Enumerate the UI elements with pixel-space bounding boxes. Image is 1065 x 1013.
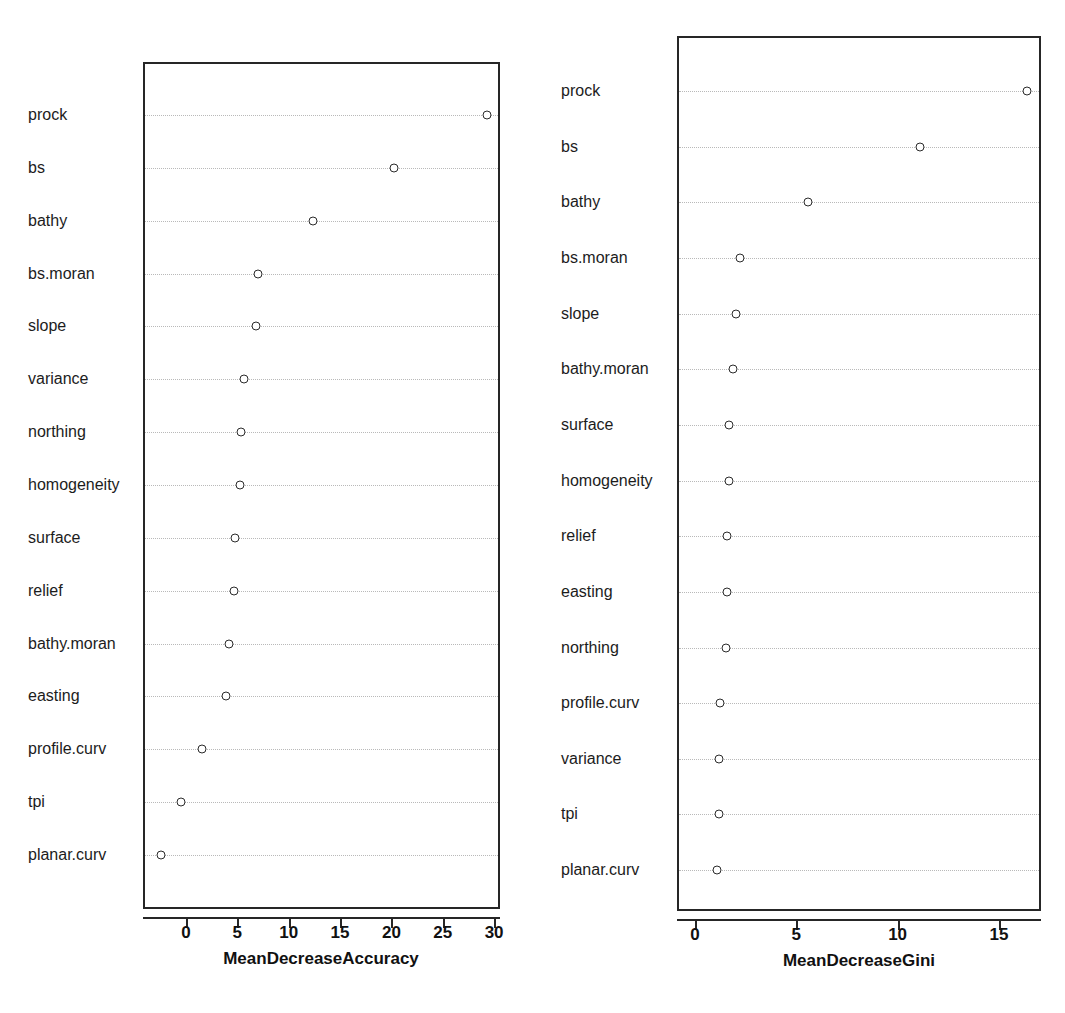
data-point-marker bbox=[735, 253, 744, 262]
data-point-marker bbox=[715, 699, 724, 708]
category-label: variance bbox=[561, 751, 621, 767]
category-label: bs.moran bbox=[28, 266, 95, 282]
x-axis-tick-label: 5 bbox=[233, 924, 242, 941]
category-label: bs.moran bbox=[561, 250, 628, 266]
x-axis-tick-label: 15 bbox=[331, 924, 350, 941]
panel-mean-decrease-accuracy: prockbsbathybs.moranslopevariancenorthin… bbox=[0, 0, 530, 1013]
category-label: bs bbox=[561, 139, 578, 155]
data-point-marker bbox=[731, 309, 740, 318]
data-point-marker bbox=[723, 532, 732, 541]
data-point-marker bbox=[390, 163, 399, 172]
category-label: bathy.moran bbox=[561, 361, 649, 377]
gridline bbox=[145, 432, 498, 433]
category-label: prock bbox=[28, 107, 67, 123]
gridline bbox=[145, 591, 498, 592]
category-label: prock bbox=[561, 83, 600, 99]
category-label: profile.curv bbox=[561, 695, 639, 711]
gridline bbox=[679, 870, 1039, 871]
x-axis-tick-label: 10 bbox=[888, 926, 907, 943]
category-label: easting bbox=[28, 688, 80, 704]
gridline bbox=[679, 147, 1039, 148]
gridline bbox=[145, 221, 498, 222]
data-point-marker bbox=[222, 692, 231, 701]
category-label: planar.curv bbox=[28, 847, 106, 863]
data-point-marker bbox=[253, 269, 262, 278]
plot-area-gini bbox=[677, 36, 1041, 911]
category-label: bathy bbox=[561, 194, 600, 210]
data-point-marker bbox=[198, 745, 207, 754]
category-label: bathy.moran bbox=[28, 636, 116, 652]
category-label: northing bbox=[28, 424, 86, 440]
gridline bbox=[679, 759, 1039, 760]
data-point-marker bbox=[157, 850, 166, 859]
category-label: homogeneity bbox=[561, 473, 653, 489]
data-point-marker bbox=[482, 111, 491, 120]
gridline bbox=[679, 202, 1039, 203]
category-label: easting bbox=[561, 584, 613, 600]
category-label: tpi bbox=[561, 806, 578, 822]
category-label: slope bbox=[28, 318, 66, 334]
gridline bbox=[145, 538, 498, 539]
category-label: northing bbox=[561, 640, 619, 656]
category-label: relief bbox=[561, 528, 596, 544]
gridline bbox=[145, 485, 498, 486]
data-point-marker bbox=[176, 798, 185, 807]
gridline bbox=[145, 379, 498, 380]
category-label: bathy bbox=[28, 213, 67, 229]
x-axis-tick-label: 0 bbox=[690, 926, 699, 943]
data-point-marker bbox=[915, 142, 924, 151]
panel-mean-decrease-gini: prockbsbathybs.moranslopebathy.moransurf… bbox=[530, 0, 1065, 1013]
x-axis-title: MeanDecreaseGini bbox=[783, 952, 935, 969]
data-point-marker bbox=[714, 810, 723, 819]
gridline bbox=[679, 648, 1039, 649]
data-point-marker bbox=[239, 375, 248, 384]
category-label: slope bbox=[561, 306, 599, 322]
data-point-marker bbox=[309, 216, 318, 225]
data-point-marker bbox=[725, 476, 734, 485]
x-axis-tick-label: 20 bbox=[382, 924, 401, 941]
gridline bbox=[145, 326, 498, 327]
gridline bbox=[145, 696, 498, 697]
x-axis-tick-label: 10 bbox=[279, 924, 298, 941]
gridline bbox=[679, 814, 1039, 815]
x-axis-line bbox=[677, 919, 1041, 921]
gridline bbox=[679, 536, 1039, 537]
data-point-marker bbox=[713, 866, 722, 875]
x-axis-tick-label: 5 bbox=[792, 926, 801, 943]
gridline bbox=[145, 855, 498, 856]
x-axis-tick-label: 30 bbox=[485, 924, 504, 941]
data-point-marker bbox=[714, 754, 723, 763]
data-point-marker bbox=[236, 480, 245, 489]
gridline bbox=[145, 115, 498, 116]
gridline bbox=[145, 168, 498, 169]
category-label: profile.curv bbox=[28, 741, 106, 757]
data-point-marker bbox=[729, 365, 738, 374]
category-label: relief bbox=[28, 583, 63, 599]
x-axis-line bbox=[143, 917, 500, 919]
data-point-marker bbox=[230, 586, 239, 595]
category-label: bs bbox=[28, 160, 45, 176]
x-axis-title: MeanDecreaseAccuracy bbox=[223, 950, 419, 967]
data-point-marker bbox=[225, 639, 234, 648]
data-point-marker bbox=[237, 428, 246, 437]
data-point-marker bbox=[804, 198, 813, 207]
gridline bbox=[679, 258, 1039, 259]
category-label: tpi bbox=[28, 794, 45, 810]
gridline bbox=[679, 592, 1039, 593]
gridline bbox=[679, 703, 1039, 704]
data-point-marker bbox=[251, 322, 260, 331]
category-label: surface bbox=[561, 417, 613, 433]
data-point-marker bbox=[1023, 87, 1032, 96]
data-point-marker bbox=[721, 643, 730, 652]
gridline bbox=[145, 274, 498, 275]
gridline bbox=[145, 644, 498, 645]
category-label: surface bbox=[28, 530, 80, 546]
x-axis-tick-label: 15 bbox=[989, 926, 1008, 943]
category-label: planar.curv bbox=[561, 862, 639, 878]
gridline bbox=[145, 802, 498, 803]
gridline bbox=[679, 91, 1039, 92]
data-point-marker bbox=[231, 533, 240, 542]
category-label: homogeneity bbox=[28, 477, 120, 493]
data-point-marker bbox=[722, 587, 731, 596]
x-axis-tick-label: 25 bbox=[433, 924, 452, 941]
